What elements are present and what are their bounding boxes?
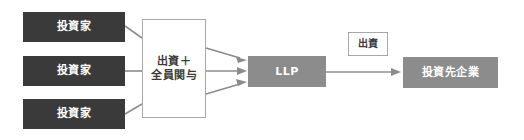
node-investor-3-label: 投資家 (57, 107, 92, 121)
node-investment-label[interactable]: 出資 (348, 32, 388, 56)
node-investor-3[interactable]: 投資家 (23, 99, 125, 129)
node-portfolio-company[interactable]: 投資先企業 (403, 57, 498, 88)
edge-contribution-to-llp-bottom (206, 84, 240, 94)
node-investment-label-text: 出資 (358, 38, 379, 51)
arrowhead-contribution-llp-mid (237, 67, 247, 75)
node-portfolio-company-label: 投資先企業 (422, 66, 480, 80)
node-llp[interactable]: LLP (248, 56, 326, 87)
arrowhead-contribution-llp-bottom (236, 79, 247, 86)
edge-investor3-to-contribution (125, 104, 142, 114)
edge-investor1-to-contribution (125, 26, 142, 38)
node-investor-1-label: 投資家 (57, 20, 92, 34)
node-investor-2[interactable]: 投資家 (23, 56, 125, 86)
node-investor-2-label: 投資家 (57, 64, 92, 78)
edge-contribution-to-llp-top (206, 48, 240, 58)
diagram-canvas: 投資家 投資家 投資家 出資＋ 全員関与 LLP 出資 投資先企業 (0, 0, 524, 140)
node-contribution-participation[interactable]: 出資＋ 全員関与 (142, 19, 206, 118)
node-contribution-participation-label: 出資＋ 全員関与 (151, 55, 197, 83)
arrowhead-llp-portfolio-company (391, 68, 401, 76)
node-investor-1[interactable]: 投資家 (23, 12, 125, 42)
node-llp-label: LLP (275, 65, 299, 79)
arrowhead-contribution-llp-top (236, 57, 247, 63)
